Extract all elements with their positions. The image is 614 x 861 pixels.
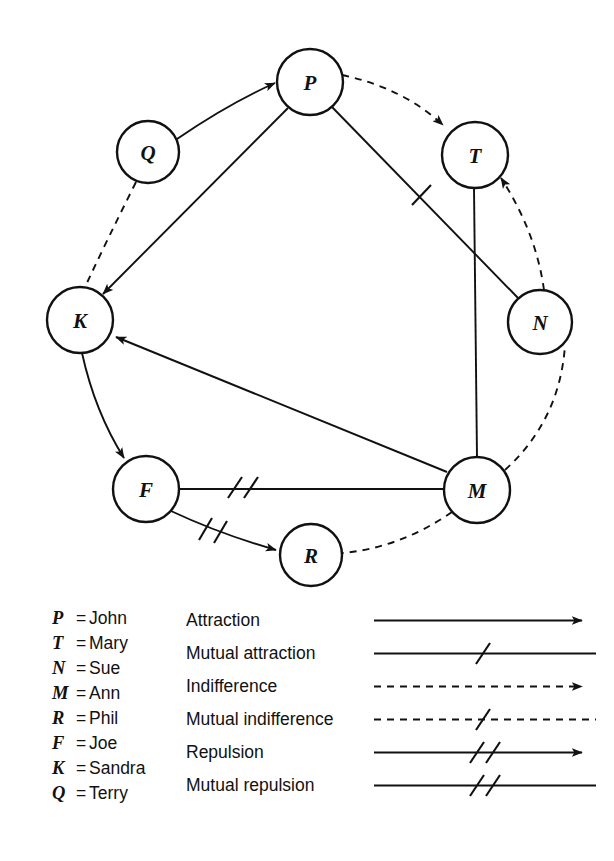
key-row-mutual-repulsion: Mutual repulsion (186, 769, 606, 802)
edge-M-F-tick-2 (244, 477, 258, 498)
relation-key-list: Attraction Mutual attraction Indifferenc… (186, 604, 606, 802)
edge-Q-P-attraction (177, 83, 275, 139)
name-row: N = Sue (52, 656, 192, 681)
name-key-letter: R (52, 706, 73, 731)
key-label: Mutual attraction (186, 637, 315, 670)
key-row-attraction: Attraction (186, 604, 606, 637)
node-P[interactable]: P (277, 49, 343, 115)
node-K-label: K (72, 309, 89, 333)
name-value: Ann (89, 681, 120, 706)
node-N[interactable]: N (508, 290, 572, 354)
edge-T-M-mutual-attraction (474, 188, 477, 457)
key-label: Attraction (186, 604, 260, 637)
edge-P-T-indifference (342, 75, 443, 125)
name-value: Terry (89, 781, 128, 806)
name-value: Phil (89, 706, 118, 731)
name-key-letter: N (52, 656, 73, 681)
name-equals: = (73, 656, 89, 681)
name-equals: = (73, 606, 89, 631)
key-label: Mutual indifference (186, 703, 334, 736)
edge-M-K-attraction (116, 337, 447, 472)
node-K[interactable]: K (47, 287, 113, 353)
edge-M-R-indifference (342, 512, 452, 553)
key-label: Repulsion (186, 736, 264, 769)
node-M-label: M (467, 479, 488, 503)
node-Q-label: Q (140, 141, 155, 165)
name-row: M = Ann (52, 681, 192, 706)
name-equals: = (73, 631, 89, 656)
key-row-mutual-indifference: Mutual indifference (186, 703, 606, 736)
edge-F-R-repulsion (171, 511, 276, 550)
node-P-label: P (303, 71, 317, 95)
name-row: K = Sandra (52, 756, 192, 781)
edge-K-F-attraction (82, 353, 124, 458)
name-key-letter: M (52, 681, 73, 706)
attraction-line-icon (372, 604, 598, 637)
edge-F-R-tick-1 (199, 518, 212, 540)
name-value: John (89, 606, 127, 631)
name-key-list: P = John T = Mary N = Sue M = Ann R = (52, 606, 192, 806)
name-value: Mary (89, 631, 128, 656)
key-row-indifference: Indifference (186, 670, 606, 703)
sociogram-graph: T : indifference (dashed, arrowed, curve… (0, 0, 614, 600)
key-label: Indifference (186, 670, 277, 703)
node-N-label: N (531, 311, 548, 335)
name-row: Q = Terry (52, 781, 192, 806)
node-T[interactable]: T (442, 122, 508, 188)
key-row-repulsion: Repulsion (186, 736, 606, 769)
name-key-letter: T (52, 631, 73, 656)
name-row: F = Joe (52, 731, 192, 756)
name-row: R = Phil (52, 706, 192, 731)
key-label: Mutual repulsion (186, 769, 314, 802)
name-equals: = (73, 681, 89, 706)
node-M[interactable]: M (444, 457, 510, 523)
mutual-attraction-line-icon (372, 637, 598, 670)
node-R-label: R (303, 544, 318, 568)
edge-P-N-tick (412, 185, 431, 205)
name-value: Sandra (89, 756, 145, 781)
edge-N-T-indifference (501, 178, 544, 290)
sociogram-figure: T : indifference (dashed, arrowed, curve… (0, 0, 614, 861)
name-equals: = (73, 731, 89, 756)
node-F-label: F (138, 478, 153, 502)
legend: P = John T = Mary N = Sue M = Ann R = (0, 598, 614, 861)
edge-F-R-tick-2 (214, 521, 227, 543)
name-value: Sue (89, 656, 120, 681)
name-key-letter: F (52, 731, 73, 756)
name-equals: = (73, 706, 89, 731)
edge-M-F-tick-1 (228, 477, 242, 498)
repulsion-line-icon (372, 736, 598, 769)
name-row: T = Mary (52, 631, 192, 656)
name-key-letter: Q (52, 781, 73, 806)
name-row: P = John (52, 606, 192, 631)
name-equals: = (73, 756, 89, 781)
node-R[interactable]: R (280, 524, 342, 586)
indifference-line-icon (372, 670, 598, 703)
node-F[interactable]: F (113, 456, 179, 522)
node-Q[interactable]: Q (117, 121, 179, 183)
name-value: Joe (89, 731, 117, 756)
name-equals: = (73, 781, 89, 806)
edge-Q-K-indifference (85, 182, 136, 287)
mutual-repulsion-line-icon (372, 769, 598, 802)
edge-M-N-T-indifference (505, 345, 565, 470)
node-layer: P T N M R F K (47, 49, 572, 586)
mutual-indifference-line-icon (372, 703, 598, 736)
name-key-letter: P (52, 606, 73, 631)
node-T-label: T (469, 144, 483, 168)
name-key-letter: K (52, 756, 73, 781)
key-row-mutual-attraction: Mutual attraction (186, 637, 606, 670)
